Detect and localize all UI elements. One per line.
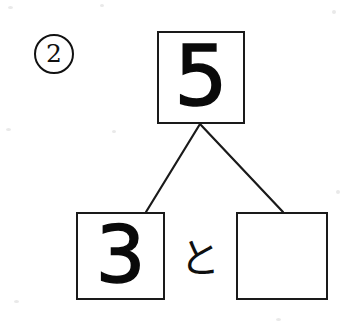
worksheet-page: 2 5 3 と bbox=[0, 0, 348, 326]
connector-line-left bbox=[146, 124, 200, 212]
scan-speckle bbox=[112, 130, 116, 133]
number-bond-whole-box[interactable]: 5 bbox=[157, 31, 245, 124]
problem-number-label: 2 bbox=[46, 41, 62, 66]
number-bond-part-value-left: 3 bbox=[96, 216, 146, 294]
scan-speckle bbox=[100, 4, 104, 7]
scan-speckle bbox=[14, 300, 19, 303]
scan-speckle bbox=[336, 190, 340, 194]
number-bond-part-box-left[interactable]: 3 bbox=[76, 212, 165, 300]
scan-speckle bbox=[276, 318, 281, 321]
connector-line-right bbox=[200, 124, 283, 212]
number-bond-part-box-right-answer-blank[interactable] bbox=[236, 212, 328, 300]
scan-speckle bbox=[6, 128, 11, 131]
conjunction-label: と bbox=[170, 232, 230, 284]
problem-number-marker: 2 bbox=[34, 34, 74, 74]
scan-speckle bbox=[8, 6, 13, 9]
scan-speckle bbox=[332, 10, 336, 14]
number-bond-whole-value: 5 bbox=[174, 34, 227, 118]
